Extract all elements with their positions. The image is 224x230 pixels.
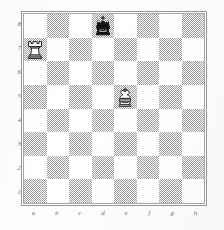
- square-g4[interactable]: [159, 109, 182, 133]
- square-h8[interactable]: [182, 14, 205, 38]
- square-b5[interactable]: [47, 85, 70, 109]
- white-rook-icon[interactable]: [25, 39, 45, 60]
- square-c6[interactable]: [69, 61, 92, 85]
- square-f3[interactable]: [137, 132, 160, 156]
- square-f8[interactable]: [137, 14, 160, 38]
- square-a8[interactable]: [24, 14, 47, 38]
- square-h1[interactable]: [182, 179, 205, 203]
- square-h6[interactable]: [182, 61, 205, 85]
- square-g1[interactable]: [159, 179, 182, 203]
- file-label-h: h: [184, 207, 207, 223]
- board-frame: [21, 11, 207, 206]
- square-b1[interactable]: [47, 179, 70, 203]
- square-e8[interactable]: [114, 14, 137, 38]
- square-a1[interactable]: [24, 179, 47, 203]
- square-c5[interactable]: [69, 85, 92, 109]
- square-f4[interactable]: [137, 109, 160, 133]
- square-c1[interactable]: [69, 179, 92, 203]
- square-d6[interactable]: [92, 61, 115, 85]
- square-f5[interactable]: [137, 85, 160, 109]
- square-e5[interactable]: [114, 85, 137, 109]
- square-h2[interactable]: [182, 156, 205, 180]
- square-f2[interactable]: [137, 156, 160, 180]
- chess-board: [24, 14, 204, 203]
- square-c4[interactable]: [69, 109, 92, 133]
- square-e6[interactable]: [114, 61, 137, 85]
- black-king-icon[interactable]: [93, 15, 113, 36]
- square-d4[interactable]: [92, 109, 115, 133]
- file-label-e: e: [115, 207, 138, 223]
- square-e2[interactable]: [114, 156, 137, 180]
- square-b3[interactable]: [47, 132, 70, 156]
- file-label-d: d: [91, 207, 114, 223]
- square-f6[interactable]: [137, 61, 160, 85]
- square-d1[interactable]: [92, 179, 115, 203]
- square-b8[interactable]: [47, 14, 70, 38]
- square-h4[interactable]: [182, 109, 205, 133]
- square-d3[interactable]: [92, 132, 115, 156]
- square-g2[interactable]: [159, 156, 182, 180]
- square-h3[interactable]: [182, 132, 205, 156]
- square-e7[interactable]: [114, 38, 137, 62]
- file-label-g: g: [161, 207, 184, 223]
- square-f7[interactable]: [137, 38, 160, 62]
- square-g8[interactable]: [159, 14, 182, 38]
- square-b7[interactable]: [47, 38, 70, 62]
- square-g7[interactable]: [159, 38, 182, 62]
- file-label-a: a: [22, 207, 45, 223]
- square-g3[interactable]: [159, 132, 182, 156]
- square-a2[interactable]: [24, 156, 47, 180]
- file-label-b: b: [45, 207, 68, 223]
- square-d5[interactable]: [92, 85, 115, 109]
- square-b6[interactable]: [47, 61, 70, 85]
- square-a7[interactable]: [24, 38, 47, 62]
- white-king-icon[interactable]: [115, 86, 135, 107]
- square-g5[interactable]: [159, 85, 182, 109]
- square-g6[interactable]: [159, 61, 182, 85]
- chess-diagram: 8 7 6 5 4 3 2 1: [0, 0, 224, 230]
- square-e1[interactable]: [114, 179, 137, 203]
- square-c3[interactable]: [69, 132, 92, 156]
- square-a4[interactable]: [24, 109, 47, 133]
- square-a3[interactable]: [24, 132, 47, 156]
- square-e4[interactable]: [114, 109, 137, 133]
- square-b2[interactable]: [47, 156, 70, 180]
- square-d2[interactable]: [92, 156, 115, 180]
- file-label-c: c: [68, 207, 91, 223]
- square-d7[interactable]: [92, 38, 115, 62]
- square-d8[interactable]: [92, 14, 115, 38]
- board-inner-frame: [23, 13, 205, 204]
- square-h5[interactable]: [182, 85, 205, 109]
- square-a6[interactable]: [24, 61, 47, 85]
- file-label-f: f: [138, 207, 161, 223]
- square-a5[interactable]: [24, 85, 47, 109]
- square-c8[interactable]: [69, 14, 92, 38]
- square-b4[interactable]: [47, 109, 70, 133]
- square-h7[interactable]: [182, 38, 205, 62]
- file-coordinates: a b c d e f g h: [22, 207, 207, 223]
- square-f1[interactable]: [137, 179, 160, 203]
- square-c7[interactable]: [69, 38, 92, 62]
- square-e3[interactable]: [114, 132, 137, 156]
- square-c2[interactable]: [69, 156, 92, 180]
